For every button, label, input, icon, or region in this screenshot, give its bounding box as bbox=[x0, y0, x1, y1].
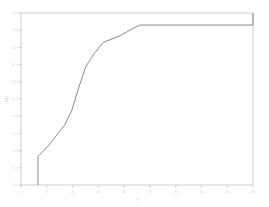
x-tick-label: 15 bbox=[96, 190, 100, 194]
x-tick-label: 40 bbox=[225, 190, 229, 194]
axes-frame bbox=[21, 13, 253, 185]
y-tick-label: 0.9 bbox=[12, 28, 17, 32]
y-tick-label: 0.0 bbox=[12, 183, 17, 187]
y-tick-label: 0.4 bbox=[12, 114, 17, 118]
y-tick-label: 0.2 bbox=[12, 149, 17, 153]
plot-frame bbox=[21, 13, 253, 185]
x-tick-label: 10 bbox=[70, 190, 74, 194]
y-tick-label: 1.0 bbox=[12, 11, 17, 15]
y-tick-label: 0.1 bbox=[12, 166, 17, 170]
y-axis-ticks bbox=[18, 13, 21, 185]
x-tick-label: 35 bbox=[199, 190, 203, 194]
x-tick-label: 45 bbox=[251, 190, 255, 194]
x-tick-label: 20 bbox=[122, 190, 126, 194]
x-tick-label: 0 bbox=[20, 190, 22, 194]
y-axis-label: F(t) bbox=[4, 95, 9, 102]
x-tick-labels: 0 5 10 15 20 25 30 35 40 45 bbox=[20, 190, 255, 194]
x-tick-label: 5 bbox=[46, 190, 48, 194]
y-tick-labels: 0.0 0.1 0.2 0.3 0.4 0.5 0.6 0.7 0.8 0.9 … bbox=[12, 11, 17, 187]
y-tick-label: 0.6 bbox=[12, 80, 17, 84]
y-tick-label: 0.8 bbox=[12, 46, 17, 50]
x-tick-label: 30 bbox=[174, 190, 178, 194]
ecdf-step-curve bbox=[38, 13, 253, 185]
x-axis-ticks bbox=[21, 185, 253, 188]
y-tick-label: 0.5 bbox=[12, 97, 17, 101]
x-axis-label: t bbox=[136, 197, 138, 202]
step-plot-svg: 0 5 10 15 20 25 30 35 40 45 0.0 0.1 bbox=[0, 0, 269, 207]
chart-figure: 0 5 10 15 20 25 30 35 40 45 0.0 0.1 bbox=[0, 0, 269, 207]
x-tick-label: 25 bbox=[148, 190, 152, 194]
y-tick-label: 0.3 bbox=[12, 132, 17, 136]
y-tick-label: 0.7 bbox=[12, 63, 17, 67]
